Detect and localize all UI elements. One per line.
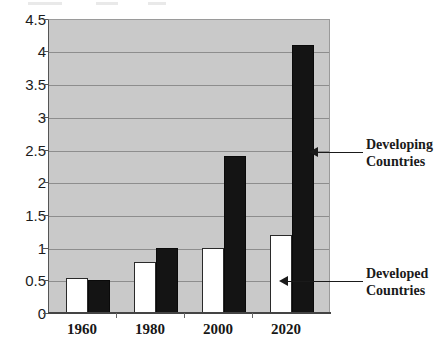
x-tick-label-2020: 2020 [251, 322, 321, 337]
top-artifact-2 [96, 2, 118, 5]
y-tick-label-4.0: 4 [4, 44, 46, 59]
bar-developed-2020 [270, 235, 292, 313]
y-tick-mark-4.5 [43, 19, 48, 20]
bar-developing-1960 [88, 280, 110, 313]
y-tick-mark-2.5 [43, 150, 48, 151]
developed-annotation-label: Developed Countries [366, 266, 428, 300]
bar-developed-1980 [134, 262, 156, 313]
developed-annotation-line2: Countries [366, 283, 428, 300]
bar-developing-1980 [156, 248, 178, 313]
developing-annotation-line [318, 152, 363, 153]
top-artifact-3 [148, 2, 166, 5]
y-tick-label-4.5: 4.5 [4, 12, 46, 27]
y-tick-mark-4.0 [43, 51, 48, 52]
gridline-3.0 [49, 118, 329, 119]
developing-annotation-arrow [309, 147, 318, 157]
x-tick-mark-3 [252, 313, 253, 318]
developed-annotation-line [288, 281, 363, 282]
gridline-3.5 [49, 85, 329, 86]
x-tick-label-1980: 1980 [115, 322, 185, 337]
y-axis: 4.5 4 3.5 3 2.5 2 1.5 1 0.5 0 [0, 0, 46, 354]
developing-annotation-line1: Developing [366, 137, 433, 154]
y-tick-label-1.5: 1.5 [4, 208, 46, 223]
bar-developing-2000 [224, 156, 246, 313]
developed-annotation-arrow [279, 276, 288, 286]
y-tick-label-2.5: 2.5 [4, 143, 46, 158]
developing-annotation-line2: Countries [366, 154, 433, 171]
bar-developed-1960 [66, 278, 88, 313]
y-tick-label-0.5: 0.5 [4, 273, 46, 288]
x-tick-label-1960: 1960 [47, 322, 117, 337]
y-tick-label-0: 0 [4, 306, 46, 321]
gridline-1.5 [49, 216, 329, 217]
x-axis-line [48, 312, 331, 314]
y-tick-mark-3.5 [43, 84, 48, 85]
gridline-2.0 [49, 183, 329, 184]
x-tick-mark-2 [184, 313, 185, 318]
y-tick-mark-0.5 [43, 280, 48, 281]
y-tick-label-2.0: 2 [4, 175, 46, 190]
developed-annotation-line1: Developed [366, 266, 428, 283]
y-tick-mark-3.0 [43, 117, 48, 118]
y-tick-mark-0 [43, 313, 48, 314]
x-tick-mark-1 [116, 313, 117, 318]
gridline-4.0 [49, 52, 329, 53]
bar-developed-2000 [202, 248, 224, 313]
x-tick-label-2000: 2000 [183, 322, 253, 337]
plot-area [48, 19, 330, 313]
chart-screenshot: 4.5 4 3.5 3 2.5 2 1.5 1 0.5 0 1960 1980 … [0, 0, 447, 354]
y-tick-mark-2.0 [43, 182, 48, 183]
y-tick-mark-1.0 [43, 248, 48, 249]
y-tick-label-1.0: 1 [4, 241, 46, 256]
y-tick-label-3.5: 3.5 [4, 77, 46, 92]
developing-annotation-label: Developing Countries [366, 137, 433, 171]
y-tick-label-3.0: 3 [4, 110, 46, 125]
bar-developing-2020 [292, 45, 314, 313]
y-tick-mark-1.5 [43, 215, 48, 216]
gridline-2.5 [49, 151, 329, 152]
